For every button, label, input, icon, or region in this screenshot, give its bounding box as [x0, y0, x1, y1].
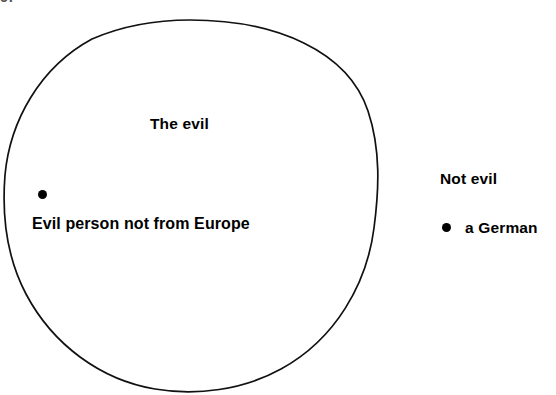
set-boundary-circle	[0, 0, 556, 395]
region-label-not-evil: Not evil	[440, 171, 497, 187]
figure-canvas: 9. The evil Evil person not from Europe …	[0, 0, 556, 395]
set-label-the-evil: The evil	[150, 116, 209, 132]
member-dot-a-german	[442, 223, 451, 232]
member-dot-evil-person	[38, 190, 47, 199]
member-label-evil-person: Evil person not from Europe	[32, 216, 250, 232]
member-label-a-german: a German	[465, 220, 538, 236]
set-boundary-path	[4, 20, 378, 392]
